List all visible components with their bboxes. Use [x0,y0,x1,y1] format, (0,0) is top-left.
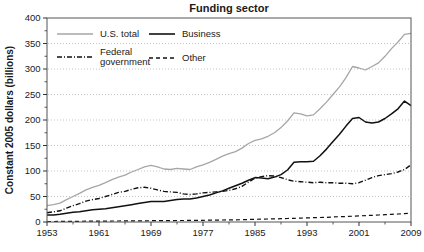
legend-item-federal-government: Federal government [56,47,152,68]
x-tick-label-1969: 1969 [140,227,161,238]
y-tick-label-0: 0 [35,216,40,227]
y-tick-label-150: 150 [25,140,41,151]
series-line-business [47,101,411,215]
x-tick-label-2009: 2009 [400,227,421,238]
x-tick-label-1985: 1985 [244,227,265,238]
series-line-other [47,213,411,221]
y-tick-label-100: 100 [25,165,41,176]
legend-label-us-total: U.S. total [100,29,139,39]
y-tick-label-50: 50 [30,191,41,202]
legend-label-business: Business [182,29,221,39]
x-tick-label-1993: 1993 [296,227,317,238]
us-total-line-sample-icon [56,31,94,37]
x-tick-label-1953: 1953 [36,227,57,238]
business-line-sample-icon [148,31,176,37]
y-tick-label-200: 200 [25,114,41,125]
legend-label-federal-government: Federal government [100,47,152,68]
federal-government-line-sample-icon [56,54,94,60]
x-tick-label-1977: 1977 [192,227,213,238]
legend-item-business: Business [148,29,221,39]
y-tick-label-300: 300 [25,63,41,74]
x-tick-label-2001: 2001 [348,227,369,238]
legend-item-us-total: U.S. total [56,29,139,39]
legend-label-other: Other [182,53,206,63]
other-line-sample-icon [148,55,176,61]
chart-figure: Funding sector Constant 2005 dollars (bi… [0,0,424,252]
y-tick-label-400: 400 [25,12,41,23]
y-tick-label-350: 350 [25,38,41,49]
x-tick-label-1961: 1961 [88,227,109,238]
legend-item-other: Other [148,53,206,63]
y-tick-label-250: 250 [25,89,41,100]
